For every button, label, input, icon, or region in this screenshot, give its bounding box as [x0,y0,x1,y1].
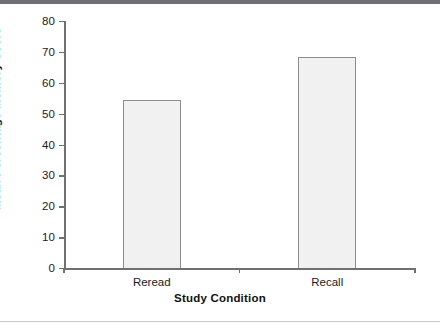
bar-reread [123,100,181,268]
y-tick-label-30: 30 [42,169,55,181]
y-tick-70 [59,52,64,53]
y-tick-label-60: 60 [42,77,55,89]
y-tick-80 [59,21,64,22]
y-tick-label-10: 10 [42,231,55,243]
y-tick-40 [59,145,64,146]
bar-recall [298,57,356,268]
y-axis-line [64,21,66,268]
y-tick-label-80: 80 [42,15,55,27]
x-tick-0 [63,268,64,273]
x-tick-1 [239,268,240,273]
x-tick-2 [414,268,415,273]
y-tick-30 [59,175,64,176]
y-tick-label-50: 50 [42,108,55,120]
y-tick-label-20: 20 [42,200,55,212]
figure-canvas: 01020304050607080 RereadRecall Mean Perc… [0,0,440,332]
y-tick-label-0: 0 [49,262,56,274]
y-tick-20 [59,206,64,207]
top-divider-rule [0,0,440,4]
y-tick-10 [59,237,64,238]
y-tick-label-40: 40 [42,139,55,151]
x-category-label-reread: Reread [133,276,171,288]
y-tick-50 [59,114,64,115]
bottom-divider-rule [0,321,440,322]
y-axis-title: Mean Percentage Memory Score [0,27,2,210]
x-category-label-recall: Recall [311,276,343,288]
x-axis-title: Study Condition [0,292,440,304]
plot-area: 01020304050607080 RereadRecall [64,21,415,268]
y-tick-60 [59,83,64,84]
y-tick-label-70: 70 [42,46,55,58]
